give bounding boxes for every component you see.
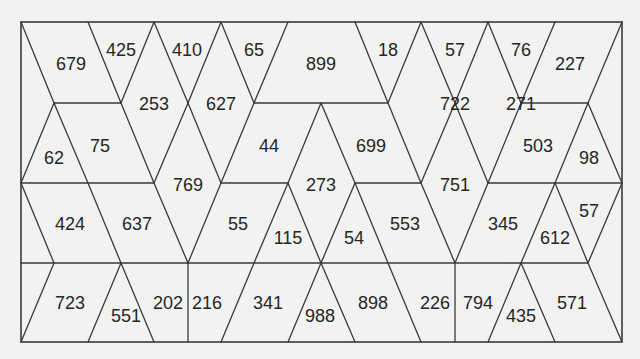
grid-line xyxy=(288,263,321,342)
cell-722[interactable]: 722 xyxy=(440,94,470,114)
grid-line xyxy=(88,183,121,263)
cell-503[interactable]: 503 xyxy=(523,136,553,156)
cell-54[interactable]: 54 xyxy=(344,228,364,248)
cell-57-right[interactable]: 57 xyxy=(579,201,599,221)
triangle-grid-board: 679 425 410 65 899 18 57 76 227 253 627 … xyxy=(0,0,640,359)
cell-98[interactable]: 98 xyxy=(579,148,599,168)
cell-227[interactable]: 227 xyxy=(555,54,585,74)
grid-line xyxy=(21,103,54,183)
grid-line xyxy=(154,22,188,103)
cell-341[interactable]: 341 xyxy=(253,293,283,313)
cell-899[interactable]: 899 xyxy=(306,54,336,74)
grid-line xyxy=(455,103,488,183)
grid-line xyxy=(221,103,254,183)
grid-line xyxy=(588,103,622,183)
grid-line xyxy=(388,103,421,183)
grid-line xyxy=(154,183,188,263)
cell-425[interactable]: 425 xyxy=(106,40,136,60)
cell-44[interactable]: 44 xyxy=(259,136,279,156)
cell-18[interactable]: 18 xyxy=(378,40,398,60)
grid-line xyxy=(321,103,355,183)
cell-424[interactable]: 424 xyxy=(55,214,85,234)
cell-612[interactable]: 612 xyxy=(540,228,570,248)
grid-line xyxy=(588,22,622,103)
grid-line xyxy=(121,103,154,183)
grid-line xyxy=(421,103,455,183)
cell-65[interactable]: 65 xyxy=(244,40,264,60)
cell-226[interactable]: 226 xyxy=(420,293,450,313)
cell-216[interactable]: 216 xyxy=(192,293,222,313)
cell-271[interactable]: 271 xyxy=(506,94,536,114)
grid-line xyxy=(355,22,388,103)
cell-253[interactable]: 253 xyxy=(139,94,169,114)
grid-line xyxy=(88,22,121,103)
cell-898[interactable]: 898 xyxy=(358,293,388,313)
grid-line xyxy=(521,22,555,103)
grid-line xyxy=(321,183,355,263)
cell-723[interactable]: 723 xyxy=(55,293,85,313)
grid-line xyxy=(254,183,288,263)
grid-line xyxy=(121,22,154,103)
cell-75[interactable]: 75 xyxy=(90,136,110,156)
cell-553[interactable]: 553 xyxy=(390,214,420,234)
grid-line xyxy=(254,22,288,103)
cell-627[interactable]: 627 xyxy=(206,94,236,114)
cell-273[interactable]: 273 xyxy=(306,175,336,195)
cell-55[interactable]: 55 xyxy=(228,214,248,234)
cell-699[interactable]: 699 xyxy=(356,136,386,156)
grid-line xyxy=(388,22,421,103)
cell-988[interactable]: 988 xyxy=(305,306,335,326)
grid-line xyxy=(188,183,221,263)
grid-line xyxy=(221,22,254,103)
grid-line xyxy=(555,103,588,183)
cell-435[interactable]: 435 xyxy=(506,306,536,326)
cell-794[interactable]: 794 xyxy=(463,293,493,313)
grid-line xyxy=(121,263,154,342)
grid-line xyxy=(188,103,221,183)
cell-637[interactable]: 637 xyxy=(122,214,152,234)
grid-line xyxy=(421,183,455,263)
grid-line xyxy=(321,263,355,342)
cell-345[interactable]: 345 xyxy=(488,214,518,234)
cell-571[interactable]: 571 xyxy=(557,293,587,313)
grid-line xyxy=(54,103,88,183)
cell-751[interactable]: 751 xyxy=(440,175,470,195)
grid-line xyxy=(521,263,555,342)
grid-line xyxy=(421,22,455,103)
grid-line xyxy=(588,183,622,263)
cell-679[interactable]: 679 xyxy=(56,54,86,74)
grid-line xyxy=(521,183,555,263)
cell-76[interactable]: 76 xyxy=(511,40,531,60)
grid-line xyxy=(488,22,521,103)
grid-line xyxy=(288,183,321,263)
cell-769[interactable]: 769 xyxy=(173,175,203,195)
grid-line xyxy=(21,263,54,342)
cell-115[interactable]: 115 xyxy=(274,228,303,248)
cell-62[interactable]: 62 xyxy=(44,148,64,168)
grid-line xyxy=(21,22,54,103)
cell-410[interactable]: 410 xyxy=(172,40,202,60)
grid-line xyxy=(388,263,421,342)
grid-line xyxy=(455,183,488,263)
grid-line xyxy=(188,22,221,103)
grid-line xyxy=(588,263,622,342)
grid-line xyxy=(88,263,121,342)
grid-line xyxy=(355,183,388,263)
grid-line xyxy=(455,22,488,103)
grid-line xyxy=(488,103,521,183)
grid-line xyxy=(555,183,588,263)
grid-line xyxy=(154,103,188,183)
cell-57-top[interactable]: 57 xyxy=(445,40,465,60)
grid-line xyxy=(21,183,54,263)
cell-551[interactable]: 551 xyxy=(111,306,141,326)
grid-line xyxy=(288,103,321,183)
cell-202[interactable]: 202 xyxy=(153,293,183,313)
grid-line xyxy=(221,263,254,342)
